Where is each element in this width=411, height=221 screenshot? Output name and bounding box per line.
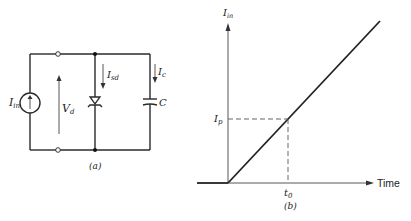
x-axis-label: Time — [377, 177, 400, 189]
ramp-graph: Iin Ip t0 Time (b) — [197, 7, 400, 211]
y-axis-arrowhead-icon — [226, 23, 231, 31]
cap-current-label: Ic — [157, 66, 166, 79]
voltage-arrowhead-icon — [57, 75, 62, 81]
input-ramp-line — [228, 21, 380, 183]
junction-dot-bottom — [93, 148, 97, 152]
graph-caption: (b) — [284, 201, 297, 211]
junction-dot-top — [93, 52, 97, 56]
voltage-label: Vd — [62, 102, 75, 116]
figure: Iin Vd Isd Ic C (a) Iin Ip t0 Time (b) — [0, 0, 411, 221]
terminal-top — [56, 52, 61, 57]
y-axis-label: Iin — [222, 7, 233, 20]
circuit-caption: (a) — [89, 161, 102, 171]
x-axis-arrowhead-icon — [366, 181, 374, 186]
cap-current-arrowhead-icon — [153, 77, 158, 83]
source-label: Iin — [8, 96, 21, 110]
diode-current-arrowhead-icon — [101, 83, 106, 89]
circuit-diagram: Iin Vd Isd Ic C (a) — [8, 52, 167, 171]
diode-triangle — [90, 97, 100, 104]
capacitor-label: C — [159, 97, 167, 108]
diode-current-label: Isd — [106, 69, 120, 82]
terminal-bottom — [56, 148, 61, 153]
t0-label: t0 — [284, 187, 293, 200]
ip-label: Ip — [213, 113, 223, 126]
